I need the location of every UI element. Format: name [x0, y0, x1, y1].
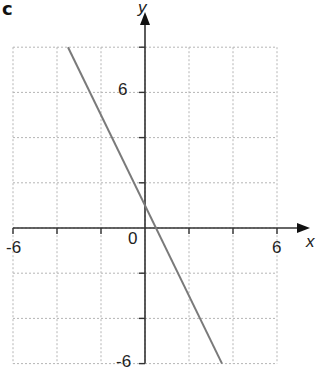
x-tick-label-max: 6: [272, 238, 281, 258]
y-tick-label-6: 6: [118, 80, 127, 100]
origin-label: 0: [128, 229, 137, 249]
y-tick-label-neg6: -6: [116, 352, 131, 372]
coordinate-plane: [0, 0, 318, 379]
x-tick-label-min: -6: [6, 238, 21, 258]
axes: [13, 12, 310, 364]
x-axis-label: x: [306, 232, 315, 252]
y-axis-label: y: [138, 0, 147, 18]
